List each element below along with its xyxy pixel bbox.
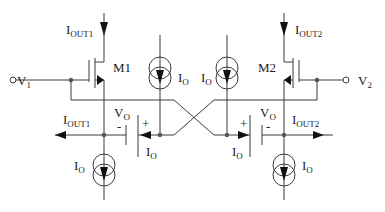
cross-coupling-wires [174, 100, 214, 135]
source-arrow-icon [97, 75, 104, 85]
current-arrow-icon [100, 167, 108, 181]
node-dot [225, 133, 229, 137]
source-arrow-icon [284, 75, 291, 85]
polarity-plus-left: + [142, 116, 149, 131]
current-source-top-right [216, 35, 238, 135]
label-iout1-top: IOUT1 [66, 22, 93, 39]
label-m1: M1 [113, 60, 131, 75]
current-arrow-icon [280, 22, 288, 36]
current-arrow-icon [156, 70, 164, 84]
output-arrow-icon [313, 131, 324, 139]
label-iout2-top: IOUT2 [295, 22, 322, 39]
current-arrow-icon [100, 22, 108, 36]
node-dot [158, 133, 162, 137]
label-v1: V1 [17, 73, 31, 90]
current-source-top-left [149, 35, 171, 135]
current-arrow-icon [223, 70, 231, 84]
polarity-minus-left: - [117, 119, 121, 134]
circuit-diagram: IOUT1 M1 V1 IOUT2 M2 V2 IO IO IOUT1 VO -… [0, 0, 385, 212]
label-iout2-bottom: IOUT2 [292, 112, 319, 129]
label-io-mid-right: IO [232, 144, 243, 161]
label-m2: M2 [258, 60, 276, 75]
node-dot [102, 133, 106, 137]
label-v2: V2 [358, 73, 372, 90]
label-io-top-left: IO [178, 70, 189, 87]
input-terminal-v1 [10, 77, 16, 83]
polarity-plus-right: + [240, 116, 247, 131]
polarity-minus-right: - [266, 119, 270, 134]
label-io-bottom-left: IO [74, 158, 85, 175]
current-arrow-icon [140, 131, 151, 139]
node-dot [282, 133, 286, 137]
current-arrow-icon [238, 131, 249, 139]
transistor-m1 [10, 13, 174, 200]
label-io-top-right: IO [201, 70, 212, 87]
current-arrow-icon [280, 167, 288, 181]
input-terminal-v2 [343, 77, 349, 83]
label-iout1-bottom: IOUT1 [63, 112, 90, 129]
label-io-mid-left: IO [146, 144, 157, 161]
label-io-bottom-right: IO [302, 158, 313, 175]
output-arrow-icon [55, 131, 66, 139]
